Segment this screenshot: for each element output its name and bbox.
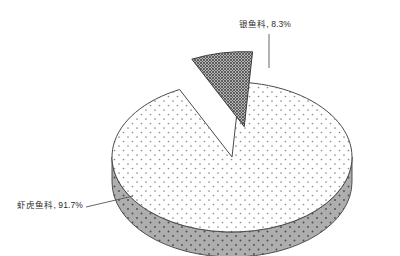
pie-chart-canvas [0,0,400,256]
slice-label-goby: 虾虎鱼科, 91.7% [17,200,83,211]
pie-slice-icefish-top [192,52,253,127]
slice-label-icefish: 银鱼科, 8.3% [239,19,291,30]
pie-chart-figure: 银鱼科, 8.3% 虾虎鱼科, 91.7% [0,0,400,256]
pie-slice-icefish [192,52,253,127]
